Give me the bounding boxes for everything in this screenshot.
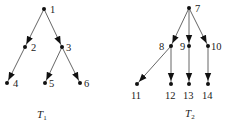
arrow-icon	[75, 73, 77, 77]
node-3	[60, 45, 64, 49]
node-5	[43, 81, 47, 85]
arrow-icon	[10, 73, 12, 77]
tree-label-t2: T2	[185, 107, 195, 121]
node-12	[169, 82, 173, 86]
node-8	[169, 44, 173, 48]
tree-t2: 7891011121314T2	[131, 3, 222, 121]
node-label-5: 5	[49, 78, 54, 89]
node-6	[78, 81, 82, 85]
tree-t1: 123456T1	[5, 4, 89, 122]
arrow-icon	[174, 36, 176, 40]
node-label-2: 2	[31, 42, 36, 53]
arrow-icon	[57, 37, 59, 41]
node-11	[135, 82, 139, 86]
node-10	[206, 44, 210, 48]
node-7	[187, 6, 191, 10]
tree-diagram: 123456T1 7891011121314T2	[0, 0, 227, 127]
node-label-7: 7	[195, 3, 200, 14]
arrow-icon	[28, 37, 30, 41]
node-4	[5, 81, 9, 85]
node-1	[42, 7, 46, 11]
node-label-8: 8	[159, 41, 164, 52]
arrow-icon	[48, 73, 50, 77]
tree-label-t1: T1	[37, 108, 47, 122]
arrow-icon	[142, 76, 145, 79]
node-label-12: 12	[165, 90, 176, 101]
node-label-1: 1	[50, 4, 55, 15]
node-2	[23, 45, 27, 49]
node-label-13: 13	[183, 90, 194, 101]
node-label-3: 3	[66, 42, 71, 53]
node-label-9: 9	[180, 41, 185, 52]
node-label-10: 10	[211, 41, 222, 52]
node-label-4: 4	[13, 78, 19, 89]
node-9	[187, 44, 191, 48]
node-14	[206, 82, 210, 86]
node-label-11: 11	[131, 90, 141, 101]
node-13	[187, 82, 191, 86]
node-label-6: 6	[84, 78, 89, 89]
arrow-icon	[203, 36, 205, 40]
node-label-14: 14	[202, 90, 213, 101]
